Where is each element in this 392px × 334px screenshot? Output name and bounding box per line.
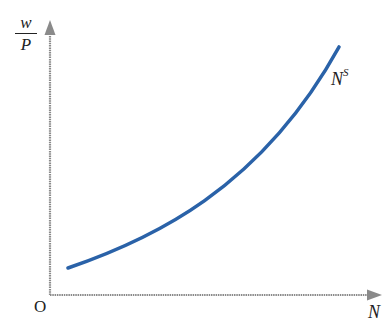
x-axis-arrow-icon <box>367 290 382 301</box>
diagram-canvas <box>0 0 392 334</box>
labor-supply-curve <box>68 47 339 268</box>
origin-label: O <box>34 297 46 317</box>
y-axis <box>45 20 56 295</box>
y-axis-label-numerator: w <box>14 14 38 33</box>
x-axis-label: N <box>368 302 380 323</box>
y-axis-label-denominator: P <box>14 34 38 53</box>
curve-label-superscript: S <box>343 66 349 78</box>
y-axis-arrow-icon <box>45 20 56 35</box>
curve-label: NS <box>331 68 349 90</box>
y-axis-label: w P <box>14 14 38 53</box>
curve-label-main: N <box>331 69 343 89</box>
x-axis <box>50 290 382 301</box>
